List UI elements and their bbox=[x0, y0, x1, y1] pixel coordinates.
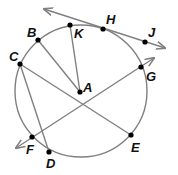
chord-CE bbox=[20, 64, 131, 135]
point-G bbox=[138, 64, 143, 69]
label-C: C bbox=[9, 49, 19, 64]
label-G: G bbox=[146, 69, 156, 84]
label-J: J bbox=[148, 25, 156, 40]
label-D: D bbox=[46, 156, 56, 171]
point-D bbox=[46, 149, 51, 154]
point-A bbox=[77, 89, 82, 94]
label-K: K bbox=[74, 26, 85, 41]
segments-group bbox=[20, 25, 131, 152]
label-E: E bbox=[131, 140, 140, 155]
point-J bbox=[142, 39, 147, 44]
point-H bbox=[100, 26, 105, 31]
circle-diagram: ABKCHJGFDE bbox=[0, 0, 178, 175]
label-H: H bbox=[106, 12, 116, 27]
points-group: ABKCHJGFDE bbox=[9, 12, 156, 171]
point-K bbox=[67, 22, 72, 27]
point-F bbox=[29, 134, 34, 139]
label-F: F bbox=[26, 142, 35, 157]
point-E bbox=[128, 132, 133, 137]
label-A: A bbox=[82, 80, 92, 95]
lines-group bbox=[16, 9, 165, 148]
label-B: B bbox=[27, 25, 36, 40]
